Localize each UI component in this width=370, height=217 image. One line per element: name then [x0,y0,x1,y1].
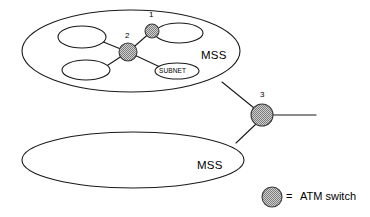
mss-lower-label: MSS [197,160,223,172]
subnet-label: SUBNET [159,68,186,75]
switch-1-node[interactable] [145,24,159,38]
subnet-upper-right [155,23,203,43]
legend-equals-sign: = [286,191,292,202]
network-topology-diagram [0,0,370,217]
subnet-upper-left [58,26,106,48]
subnet-lower-left [62,60,110,80]
switch-3-node[interactable] [251,104,273,126]
link-mss-lower-to-s3 [236,124,256,143]
legend-switch-marker-icon [262,187,282,207]
legend-atm-switch-text: ATM switch [300,191,356,202]
switch-3-number-label: 3 [260,91,264,99]
switch-2-node[interactable] [119,43,137,61]
switch-2-number-label: 2 [125,32,129,40]
switch-1-number-label: 1 [149,11,153,19]
link-mss-upper-to-s3 [222,82,254,108]
mss-upper-label: MSS [201,50,227,62]
diagram-canvas: MSS MSS SUBNET 1 2 3 = ATM switch [0,0,370,217]
